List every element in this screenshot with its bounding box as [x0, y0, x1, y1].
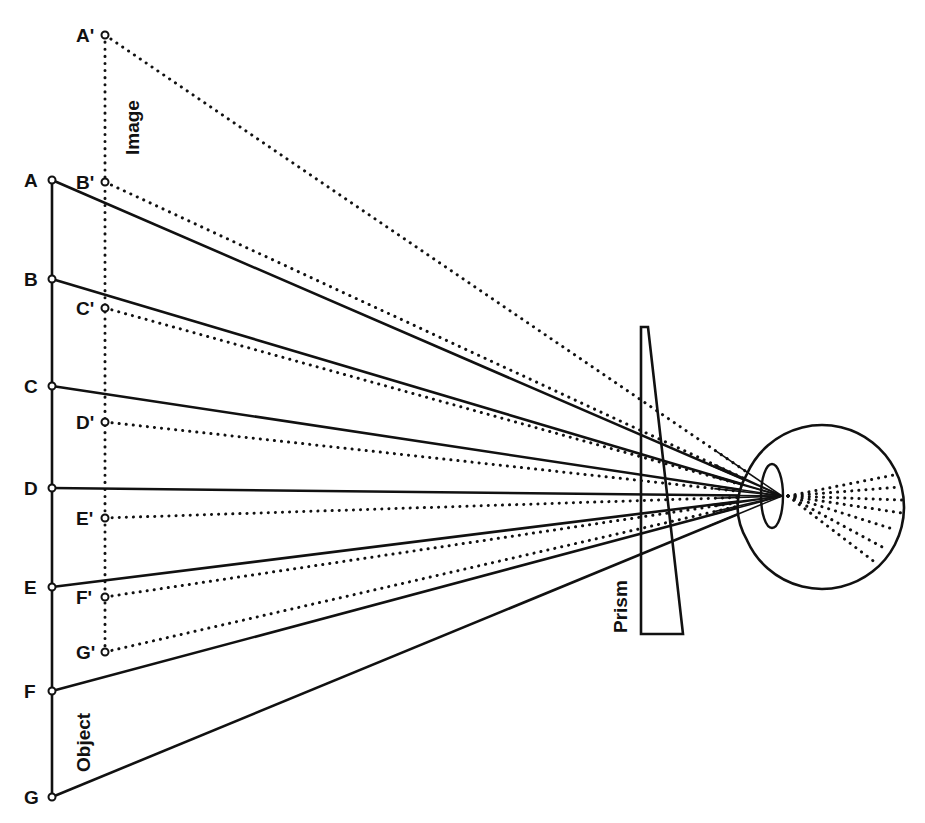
object-point-f: [49, 688, 56, 695]
object-point-b: [49, 276, 56, 283]
object-point-e: [49, 584, 56, 591]
object-point-label: G: [24, 787, 39, 808]
object-point-label: E: [24, 577, 37, 598]
image-point-label: F': [76, 587, 92, 608]
object-axis-label: Object: [73, 712, 94, 772]
image-axis-label: Image: [122, 100, 143, 155]
virtual-ray: [105, 496, 782, 597]
image-point: [102, 594, 109, 601]
object-point-c: [49, 383, 56, 390]
object-point-label: D: [24, 478, 38, 499]
object-point-a: [49, 177, 56, 184]
object-point-label: F: [24, 681, 36, 702]
prism-optics-diagram: ABCDEFGA'B'C'D'E'F'G' Image Object Prism: [0, 0, 925, 823]
prism-label: Prism: [610, 580, 631, 633]
ray-f: [52, 496, 782, 691]
object-point-label: C: [24, 376, 38, 397]
ray-b: [52, 279, 782, 496]
image-rays: [105, 35, 782, 652]
image-point-label: E': [76, 508, 93, 529]
image-point-label: G': [76, 642, 95, 663]
image-point: [102, 179, 109, 186]
point-labels: ABCDEFGA'B'C'D'E'F'G': [24, 25, 95, 808]
ray-d: [52, 488, 782, 496]
image-point-label: C': [76, 298, 94, 319]
virtual-ray: [105, 496, 782, 652]
image-point: [102, 419, 109, 426]
object-point-label: B: [24, 269, 38, 290]
image-point-label: D': [76, 412, 94, 433]
virtual-ray: [105, 496, 782, 518]
virtual-ray: [105, 308, 782, 496]
object-rays: [52, 180, 782, 797]
virtual-ray: [105, 182, 782, 496]
ray-c: [52, 386, 782, 496]
object-point-d: [49, 485, 56, 492]
ray-a: [52, 180, 782, 496]
virtual-ray: [105, 422, 782, 496]
image-point: [102, 32, 109, 39]
image-point: [102, 305, 109, 312]
image-point: [102, 649, 109, 656]
object-point-label: A: [24, 170, 38, 191]
image-point-label: B': [76, 172, 94, 193]
image-point: [102, 515, 109, 522]
object-point-g: [49, 794, 56, 801]
image-point-label: A': [76, 25, 94, 46]
virtual-ray: [105, 35, 782, 496]
